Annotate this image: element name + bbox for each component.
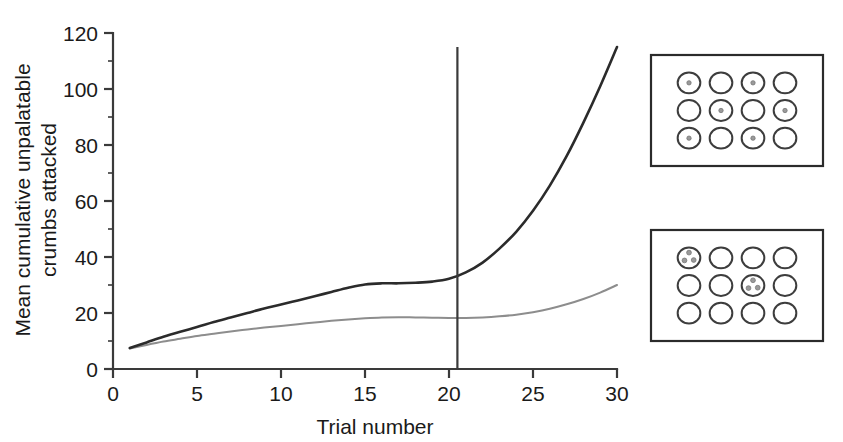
panel-top-diagram: [651, 55, 823, 166]
series-dark-curve: [130, 47, 617, 348]
crumb-circle: [710, 72, 733, 93]
crumb-circle: [774, 128, 797, 149]
x-axis-tick-labels: 051015202530: [107, 382, 629, 405]
crumb-circle: [710, 128, 733, 149]
crumb-dot: [687, 81, 691, 85]
y-axis-title: Mean cumulative unpalatable crumbs attac…: [11, 63, 60, 336]
crumb-circle: [678, 303, 701, 324]
crumb-dot: [746, 286, 751, 291]
y-tick-label-60: 60: [75, 190, 98, 213]
y-axis-ticks: [104, 33, 113, 369]
crumb-dot: [691, 258, 696, 263]
y-axis-tick-labels: 020406080100120: [63, 22, 98, 381]
x-tick-label-30: 30: [605, 382, 628, 405]
crumb-circle: [678, 275, 701, 296]
crumb-dot: [751, 81, 755, 85]
x-tick-label-5: 5: [191, 382, 203, 405]
y-tick-label-100: 100: [63, 78, 98, 101]
x-axis-title: Trial number: [316, 415, 433, 438]
x-axis-ticks: [113, 369, 617, 378]
y-tick-label-80: 80: [75, 134, 98, 157]
crumb-circle: [774, 247, 797, 268]
crumb-circle: [710, 275, 733, 296]
crumb-circle: [710, 303, 733, 324]
x-tick-label-15: 15: [353, 382, 376, 405]
y-tick-label-0: 0: [86, 358, 98, 381]
panel-bottom-diagram: [651, 230, 823, 341]
crumb-dot: [682, 258, 687, 263]
crumb-circle: [742, 247, 765, 268]
y-axis-title-line-2: crumbs attacked: [37, 123, 60, 277]
x-tick-label-0: 0: [107, 382, 119, 405]
crumb-dot: [783, 108, 787, 112]
chart-svg: 020406080100120 051015202530 Trial numbe…: [0, 0, 843, 442]
crumb-dot: [755, 285, 760, 290]
figure-root: 020406080100120 051015202530 Trial numbe…: [0, 0, 843, 442]
crumb-circle: [678, 100, 701, 121]
x-tick-label-10: 10: [269, 382, 292, 405]
y-tick-label-20: 20: [75, 302, 98, 325]
plot-area: 020406080100120 051015202530: [63, 22, 629, 405]
crumb-circle: [774, 275, 797, 296]
crumb-dot: [751, 278, 756, 283]
crumb-circle: [774, 72, 797, 93]
crumb-dot: [687, 250, 692, 255]
x-tick-label-25: 25: [521, 382, 544, 405]
series-light-curve: [130, 285, 617, 349]
crumb-circle: [774, 303, 797, 324]
y-tick-label-40: 40: [75, 246, 98, 269]
crumb-dot: [687, 136, 691, 140]
crumb-circle: [710, 247, 733, 268]
crumb-circle: [742, 303, 765, 324]
crumb-dot: [719, 108, 723, 112]
crumb-dot: [751, 136, 755, 140]
x-tick-label-20: 20: [437, 382, 460, 405]
crumb-circle: [742, 100, 765, 121]
y-tick-label-120: 120: [63, 22, 98, 45]
y-axis-title-line-1: Mean cumulative unpalatable: [11, 63, 34, 336]
